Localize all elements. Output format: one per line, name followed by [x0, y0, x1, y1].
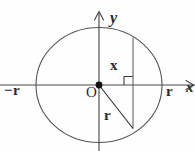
figure-canvas — [0, 0, 195, 151]
horizontal-leg-label: x — [110, 58, 118, 73]
y-axis-label: y — [110, 10, 117, 26]
geometry-figure: y x −r r O x r — [0, 0, 195, 151]
negative-r-tick-label: −r — [4, 83, 20, 98]
origin-label: O — [86, 85, 97, 100]
x-axis-label: x — [186, 80, 194, 95]
positive-r-tick-label: r — [166, 84, 173, 99]
radius-segment-label: r — [104, 108, 111, 123]
right-angle-marker — [124, 77, 133, 86]
